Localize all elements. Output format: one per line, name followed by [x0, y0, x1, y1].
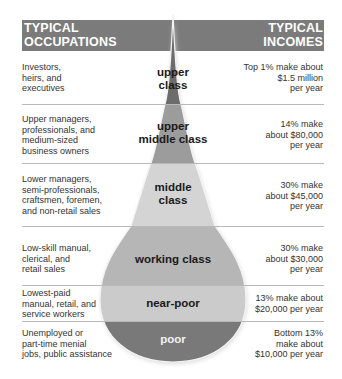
occupation-line: and non-retail sales	[22, 206, 122, 217]
occupation-line: medium-sized	[22, 135, 122, 146]
class-name-line: working class	[123, 253, 223, 266]
income-line: about $45,000	[213, 191, 323, 202]
occupation-line: clerical, and	[22, 254, 122, 265]
occupations-header-line2: OCCUPATIONS	[24, 35, 117, 49]
class-name-line: poor	[123, 333, 223, 346]
incomes-header-line1: TYPICAL	[263, 21, 323, 35]
income-line: make about	[213, 339, 323, 350]
label-upper-middle-class: upper middle class	[123, 120, 223, 146]
occupations-working-class: Low-skill manual, clerical, and retail s…	[22, 243, 122, 275]
row-divider	[22, 285, 324, 286]
occupation-line: Upper managers,	[22, 114, 122, 125]
class-name-line: middle class	[123, 133, 223, 146]
occupations-poor: Unemployed or part-time menial jobs, pub…	[22, 328, 132, 360]
income-line: Top 1% make about	[213, 62, 323, 73]
income-line: per year	[213, 140, 323, 151]
income-line: Bottom 13%	[213, 328, 323, 339]
incomes-header: TYPICAL INCOMES	[263, 21, 323, 49]
income-working-class: 30% make about $30,000 per year	[213, 243, 323, 275]
occupations-middle-class: Lower managers, semi-professionals, craf…	[22, 174, 122, 216]
income-line: about $80,000	[213, 130, 323, 141]
class-name-line: near-poor	[123, 297, 223, 310]
income-poor: Bottom 13% make about $10,000 per year	[213, 328, 323, 360]
occupations-near-poor: Lowest-paid manual, retail, and service …	[22, 288, 122, 320]
class-name-line: middle	[123, 181, 223, 194]
occupation-line: Low-skill manual,	[22, 243, 122, 254]
occupation-line: semi-professionals,	[22, 185, 122, 196]
income-line: per year	[213, 201, 323, 212]
row-divider	[22, 226, 324, 227]
income-line: per year	[213, 83, 323, 94]
row-divider	[22, 163, 324, 164]
income-near-poor: 13% make about $20,000 per year	[213, 293, 323, 314]
occupations-header: TYPICAL OCCUPATIONS	[24, 21, 117, 49]
income-line: 30% make	[213, 243, 323, 254]
occupation-line: professionals, and	[22, 125, 122, 136]
class-name-line: class	[123, 79, 223, 92]
occupation-line: Lowest-paid	[22, 288, 122, 299]
income-line: 14% make	[213, 119, 323, 130]
income-line: $20,000 per year	[213, 304, 323, 315]
occupations-upper-class: Investors, heirs, and executives	[22, 62, 122, 94]
occupation-line: business owners	[22, 146, 122, 157]
label-upper-class: upper class	[123, 66, 223, 92]
occupation-line: craftsmen, foremen,	[22, 195, 122, 206]
label-poor: poor	[123, 333, 223, 346]
income-line: about $30,000	[213, 254, 323, 265]
occupation-line: part-time menial	[22, 339, 132, 350]
incomes-header-line2: INCOMES	[263, 35, 323, 49]
occupation-line: Unemployed or	[22, 328, 132, 339]
occupation-line: Investors,	[22, 62, 122, 73]
income-line: 30% make	[213, 180, 323, 191]
occupation-line: heirs, and	[22, 73, 122, 84]
class-name-line: upper	[123, 120, 223, 133]
occupation-line: service workers	[22, 309, 122, 320]
class-name-line: class	[123, 194, 223, 207]
label-middle-class: middle class	[123, 181, 223, 207]
occupations-header-line1: TYPICAL	[24, 21, 117, 35]
row-divider	[22, 104, 324, 105]
occupations-upper-middle-class: Upper managers, professionals, and mediu…	[22, 114, 122, 156]
income-line: $1.5 million	[213, 73, 323, 84]
occupation-line: jobs, public assistance	[22, 349, 132, 360]
label-working-class: working class	[123, 253, 223, 266]
occupation-line: retail sales	[22, 264, 122, 275]
occupation-line: manual, retail, and	[22, 299, 122, 310]
row-divider	[22, 321, 324, 322]
income-line: 13% make about	[213, 293, 323, 304]
class-name-line: upper	[123, 66, 223, 79]
occupation-line: Lower managers,	[22, 174, 122, 185]
income-line: per year	[213, 264, 323, 275]
income-upper-middle-class: 14% make about $80,000 per year	[213, 119, 323, 151]
income-middle-class: 30% make about $45,000 per year	[213, 180, 323, 212]
label-near-poor: near-poor	[123, 297, 223, 310]
occupation-line: executives	[22, 83, 122, 94]
income-line: $10,000 per year	[213, 349, 323, 360]
income-upper-class: Top 1% make about $1.5 million per year	[213, 62, 323, 94]
